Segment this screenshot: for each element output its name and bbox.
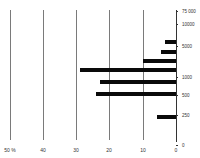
y-axis-tick xyxy=(176,77,178,78)
bar xyxy=(157,115,176,119)
y-axis-label: 5000 xyxy=(182,44,192,49)
y-axis-label: 75 000 xyxy=(182,9,196,14)
y-axis-tick xyxy=(176,145,178,146)
gridline xyxy=(109,10,110,140)
x-axis-label: 20 xyxy=(106,147,112,153)
gridline xyxy=(143,10,144,140)
gridline xyxy=(43,10,44,140)
bar xyxy=(165,40,176,44)
bar xyxy=(143,59,176,63)
y-axis-tick xyxy=(176,115,178,116)
y-axis-label: 10000 xyxy=(182,22,195,27)
y-axis-label: 500 xyxy=(182,93,190,98)
bar xyxy=(100,80,176,84)
gridline xyxy=(76,10,77,140)
bar xyxy=(96,92,176,96)
y-axis-tick xyxy=(176,46,178,47)
y-axis-tick xyxy=(176,24,178,25)
x-axis-label: 10 xyxy=(140,147,146,153)
x-axis-label: 40 xyxy=(40,147,46,153)
bar xyxy=(80,68,176,72)
y-axis-label: 250 xyxy=(182,113,190,118)
gridline xyxy=(10,10,11,140)
y-axis-tick xyxy=(176,95,178,96)
y-axis-label: 0 xyxy=(182,143,185,148)
y-axis-tick xyxy=(176,11,178,12)
x-axis-label: 30 xyxy=(73,147,79,153)
x-axis-label: 0 xyxy=(175,147,178,153)
bar xyxy=(161,50,176,54)
x-axis-label: 50 % xyxy=(4,147,15,153)
y-axis-label: 1000 xyxy=(182,75,192,80)
y-axis-line xyxy=(176,10,177,142)
